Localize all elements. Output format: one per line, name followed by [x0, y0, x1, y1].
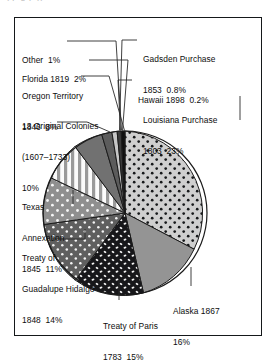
- callout-guadalupe-line3: 1848 14%: [22, 315, 95, 325]
- callout-colonies-line1: 13 Original Colonies: [22, 121, 98, 131]
- leader-line-gadsden: [120, 40, 138, 131]
- callout-paris-line2: 1783 15%: [103, 352, 158, 362]
- callout-treaty-of-paris: Treaty of Paris 1783 15%: [103, 301, 158, 364]
- callout-texas-annexation: Texas Annexation 1845 11%: [22, 182, 64, 294]
- chart-frame: Other 1% Florida 1819 2% Oregon Territor…: [14, 17, 262, 336]
- cut-off-caption-text: ( p g p )): [6, 0, 44, 1]
- callout-colonies-line2: (1607–1733): [22, 152, 98, 162]
- callout-paris-line1: Treaty of Paris: [103, 321, 158, 331]
- callout-texas-line3: 1845 11%: [22, 264, 64, 274]
- callout-alaska-line1: Alaska 1867: [173, 306, 220, 316]
- callout-texas-line2: Annexation: [22, 233, 64, 243]
- callout-louisiana-line2: 1803 23%: [143, 146, 217, 156]
- callout-louisiana-purchase: Louisiana Purchase 1803 23%: [143, 95, 217, 177]
- callout-alaska-line2: 16%: [173, 337, 220, 347]
- callout-texas-line1: Texas: [22, 202, 64, 212]
- cut-off-caption-strip: ( p g p )): [0, 0, 276, 13]
- callout-gadsden-line1: Gadsden Purchase: [143, 54, 216, 64]
- callout-louisiana-line1: Louisiana Purchase: [143, 115, 217, 125]
- callout-alaska: Alaska 1867 16%: [173, 286, 220, 364]
